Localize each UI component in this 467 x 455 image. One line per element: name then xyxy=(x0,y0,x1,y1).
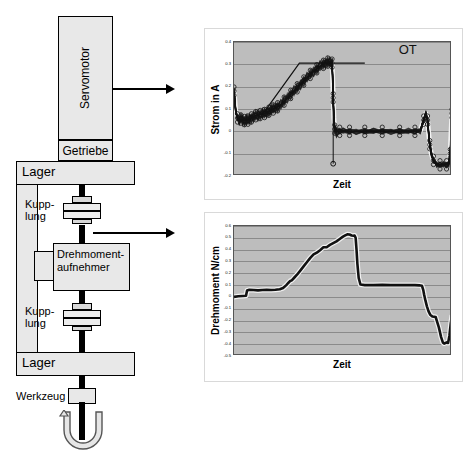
coupling-lower-flange xyxy=(63,318,101,326)
lager-top-label: Lager xyxy=(22,164,55,179)
arrowhead-icon xyxy=(166,228,175,238)
current-chart-card: Strom in A 0.40.30.20.10-0.1-0.2 OT Zeit xyxy=(204,28,463,200)
coupling-foot xyxy=(72,219,92,224)
shaft-segment xyxy=(79,330,85,354)
y-tick-label: -0.2 xyxy=(207,173,231,178)
y-tick-label: 0.5 xyxy=(207,234,231,239)
shaft-segment xyxy=(79,225,85,245)
lager-bottom-label: Lager xyxy=(22,355,55,370)
y-tick-label: 0.4 xyxy=(207,246,231,251)
machine-schematic: Servomotor Getriebe Lager Kupp- lung Dre… xyxy=(0,0,200,455)
y-tick-label: 0.3 xyxy=(207,258,231,263)
kupplung-lower-label: Kupp- lung xyxy=(25,305,54,329)
werkzeug-label: Werkzeug xyxy=(16,390,65,402)
current-chart-xlabel: Zeit xyxy=(233,179,451,190)
torque-chart-xlabel: Zeit xyxy=(233,359,451,370)
servomotor-label-wrap: Servomotor xyxy=(58,16,113,140)
coupling-mid-flange xyxy=(63,310,101,318)
servomotor-label: Servomotor xyxy=(79,47,93,109)
y-tick-label: -0.2 xyxy=(207,317,231,322)
y-tick-label: -0.1 xyxy=(207,305,231,310)
torque-chart-series xyxy=(234,226,451,355)
coupling-lower xyxy=(63,303,101,331)
y-tick-label: 0 xyxy=(207,128,231,133)
getriebe-label: Getriebe xyxy=(58,140,113,161)
y-tick-label: -0.5 xyxy=(207,353,231,358)
current-chart-plot-area xyxy=(233,41,451,175)
y-tick-label: 0 xyxy=(207,293,231,298)
callout-line xyxy=(113,88,166,90)
y-tick-label: 0.1 xyxy=(207,282,231,287)
y-tick-label: 0.3 xyxy=(207,61,231,66)
coupling-top-flange xyxy=(72,303,92,310)
y-tick-label: 0.6 xyxy=(207,223,231,228)
sensor-mount-stub xyxy=(34,251,54,281)
y-tick-label: -0.4 xyxy=(207,341,231,346)
coupling-lower-flange xyxy=(63,211,101,219)
coupling-top-flange xyxy=(72,196,92,203)
arrow-to-torque-chart xyxy=(93,228,175,238)
y-tick-label: 0.2 xyxy=(207,83,231,88)
y-tick-label: 0.2 xyxy=(207,270,231,275)
torque-chart-plot-area xyxy=(233,225,451,355)
kupplung-upper-label: Kupp- lung xyxy=(25,198,54,222)
shaft-segment xyxy=(79,376,85,388)
arrowhead-icon xyxy=(166,84,175,94)
torque-chart-card: Drehmoment N/cm 0.60.50.40.30.20.10-0.1-… xyxy=(204,212,463,382)
coupling-mid-flange xyxy=(63,203,101,211)
arrow-to-current-chart xyxy=(113,84,175,94)
y-tick-label: -0.3 xyxy=(207,329,231,334)
ot-annotation: OT xyxy=(399,42,417,57)
y-tick-label: -0.1 xyxy=(207,150,231,155)
callout-line xyxy=(93,232,166,234)
current-chart-series xyxy=(234,42,451,175)
coupling-upper xyxy=(63,196,101,224)
drehmomentaufnehmer-label: Drehmoment- aufnehmer xyxy=(57,248,129,274)
rotation-arrow-icon xyxy=(58,410,108,452)
y-tick-label: 0.4 xyxy=(207,39,231,44)
y-tick-label: 0.1 xyxy=(207,106,231,111)
